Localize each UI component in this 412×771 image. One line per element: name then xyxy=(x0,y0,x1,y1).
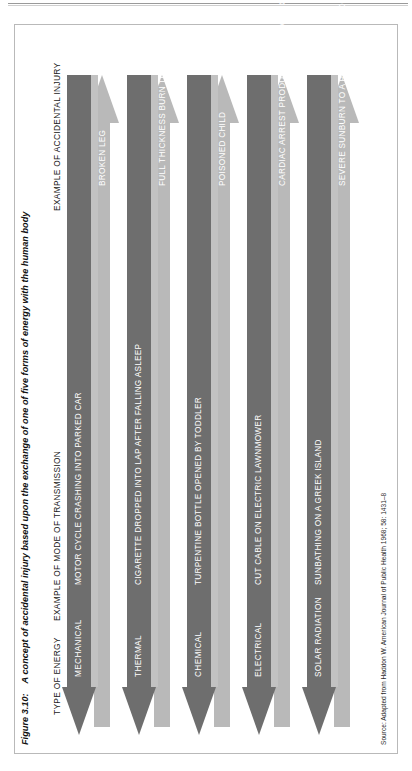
energy-type-label: THERMAL xyxy=(130,635,148,677)
energy-arrow-head xyxy=(302,687,336,735)
energy-arrow-head xyxy=(62,687,96,735)
energy-arrow: ELECTRICAL CUT CABLE ON ELECTRIC LAWNMOW… xyxy=(247,75,281,735)
figure-page: Figure 3.10:A concept of accidental inju… xyxy=(0,0,412,771)
energy-arrow-shadow xyxy=(331,75,338,687)
energy-arrow-shadow xyxy=(151,75,158,687)
energy-arrow-shadow xyxy=(271,75,278,687)
energy-arrow-shadow xyxy=(211,75,218,687)
energy-arrow-head xyxy=(182,687,216,735)
figure-caption: Figure 3.10:A concept of accidental inju… xyxy=(20,29,30,745)
energy-type-label: MECHANICAL xyxy=(70,619,88,677)
column-header-accidental-injury: EXAMPLE OF ACCIDENTAL INJURY xyxy=(52,62,62,210)
energy-type-label: SOLAR RADIATION xyxy=(310,596,328,676)
transmission-label: SUNBATHING ON A GREEK ISLAND xyxy=(310,439,328,585)
energy-arrow: CHEMICAL TURPENTINE BOTTLE OPENED BY TOD… xyxy=(187,75,221,735)
energy-arrow-shadow xyxy=(91,75,98,687)
figure-number: Figure 3.10: xyxy=(20,693,30,745)
transmission-label: CIGARETTE DROPPED INTO LAP AFTER FALLING… xyxy=(130,343,148,584)
energy-arrow-head xyxy=(122,687,156,735)
energy-arrow-shaft xyxy=(307,75,331,687)
figure-canvas: Figure 3.10:A concept of accidental inju… xyxy=(14,21,398,751)
column-header-type-of-energy: TYPE OF ENERGY xyxy=(52,637,62,715)
transmission-label: CUT CABLE ON ELECTRIC LAWNMOWER xyxy=(250,414,268,584)
column-header-mode-of-transmission: EXAMPLE OF MODE OF TRANSMISSION xyxy=(52,450,62,620)
energy-type-label: ELECTRICAL xyxy=(250,622,268,677)
energy-arrow: SOLAR RADIATION SUNBATHING ON A GREEK IS… xyxy=(307,75,341,735)
energy-arrow-shaft xyxy=(187,75,211,687)
energy-arrow: MECHANICAL MOTOR CYCLE CRASHING INTO PAR… xyxy=(67,75,101,735)
energy-arrow-shaft xyxy=(247,75,271,687)
transmission-label: MOTOR CYCLE CRASHING INTO PARKED CAR xyxy=(70,392,88,585)
energy-type-label: CHEMICAL xyxy=(190,631,208,677)
figure-source-note: Source: Adapted from Haddon W. American … xyxy=(380,492,387,744)
transmission-label: TURPENTINE BOTTLE OPENED BY TODDLER xyxy=(190,397,208,585)
energy-arrow-shaft xyxy=(67,75,91,687)
rotated-figure-wrapper: Figure 3.10:A concept of accidental inju… xyxy=(0,0,412,771)
energy-arrow-head xyxy=(242,687,276,735)
figure-caption-text: A concept of accidental injury based upo… xyxy=(20,211,30,683)
energy-arrow: THERMAL CIGARETTE DROPPED INTO LAP AFTER… xyxy=(127,75,161,735)
